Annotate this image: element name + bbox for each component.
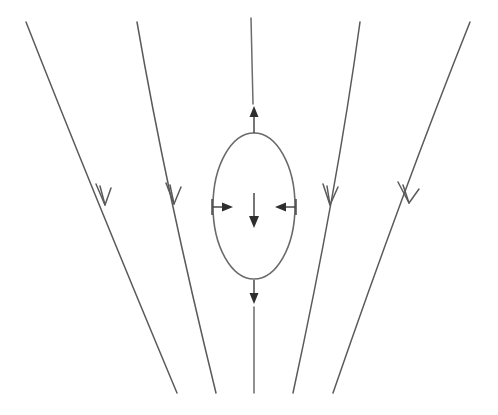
diagram-canvas: Converging field lines with inward-colla…	[0, 0, 498, 415]
diagram-background	[0, 0, 498, 415]
field-lines-diagram	[0, 0, 498, 415]
